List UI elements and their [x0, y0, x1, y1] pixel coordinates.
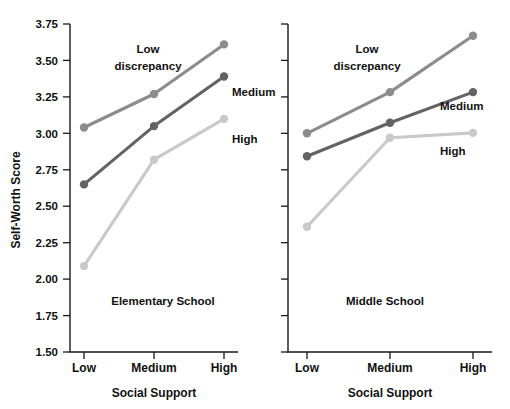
y-tick-label: 2.00 — [36, 273, 58, 285]
data-point — [80, 180, 88, 188]
panel-title-elementary: Elementary School — [111, 295, 215, 307]
x-axis-title-left: Social Support — [112, 386, 197, 400]
left-panel-x-ticks — [84, 352, 224, 359]
y-tick-label: 3.75 — [36, 18, 59, 30]
annotation-medium-right: Medium — [440, 100, 483, 112]
x-tick-label-low: Low — [72, 361, 97, 375]
data-point — [150, 90, 158, 98]
data-point — [303, 152, 311, 160]
annotation-high-left: High — [232, 133, 258, 145]
right-panel-x-ticks — [307, 352, 473, 359]
data-point — [220, 72, 228, 80]
data-point — [80, 123, 88, 131]
x-tick-label-medium: Medium — [367, 361, 412, 375]
data-point — [386, 134, 394, 142]
self-worth-score-line-chart: Self-Worth Score 1.50 1.75 2.00 2.25 2.5… — [0, 0, 510, 409]
y-tick-label: 3.00 — [36, 128, 58, 140]
annotation-low-discrepancy-line2-left: discrepancy — [114, 60, 182, 72]
data-point — [80, 262, 88, 270]
y-tick-label: 3.25 — [36, 91, 59, 103]
x-tick-label-high: High — [211, 361, 238, 375]
left-panel-x-tick-labels: Low Medium High — [72, 361, 237, 375]
y-tick-label: 1.75 — [36, 310, 59, 322]
x-tick-label-low: Low — [295, 361, 320, 375]
y-axis-title-left: Self-Worth Score — [9, 151, 23, 248]
panel-elementary: Self-Worth Score 1.50 1.75 2.00 2.25 2.5… — [9, 18, 275, 400]
x-tick-label-high: High — [460, 361, 487, 375]
data-point — [386, 88, 394, 96]
data-point — [303, 129, 311, 137]
y-tick-label: 1.50 — [36, 346, 58, 358]
panel-middle: Low Medium High Social Support Middle Sc… — [281, 24, 492, 400]
annotation-medium-left: Medium — [232, 86, 275, 98]
data-point — [220, 40, 228, 48]
x-tick-label-medium: Medium — [131, 361, 176, 375]
x-axis-title-right: Social Support — [348, 386, 433, 400]
annotation-low-discrepancy-line1-right: Low — [356, 43, 379, 55]
y-tick-label: 2.50 — [36, 200, 58, 212]
data-point — [150, 156, 158, 164]
data-point — [469, 129, 477, 137]
data-point — [386, 119, 394, 127]
data-point — [469, 32, 477, 40]
annotation-low-discrepancy-line2-right: discrepancy — [333, 60, 401, 72]
data-point — [469, 88, 477, 96]
y-tick-label: 2.75 — [36, 164, 59, 176]
right-panel-y-ticks — [281, 24, 288, 352]
y-tick-label: 3.50 — [36, 55, 58, 67]
data-point — [303, 223, 311, 231]
series-high-elementary — [80, 115, 228, 271]
left-panel-y-ticks — [63, 24, 70, 352]
data-point — [150, 122, 158, 130]
panel-title-middle: Middle School — [346, 295, 424, 307]
y-tick-label: 2.25 — [36, 237, 59, 249]
left-panel-y-tick-labels: 1.50 1.75 2.00 2.25 2.50 2.75 3.00 3.25 … — [36, 18, 59, 358]
annotation-low-discrepancy-line1-left: Low — [137, 43, 160, 55]
right-panel-x-tick-labels: Low Medium High — [295, 361, 486, 375]
annotation-high-right: High — [440, 145, 466, 157]
data-point — [220, 115, 228, 123]
